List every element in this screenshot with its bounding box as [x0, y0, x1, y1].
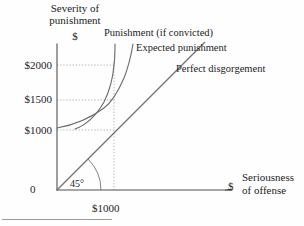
page-bottom-rule	[2, 219, 112, 220]
x-axis-unit: $	[228, 180, 234, 192]
y-axis-title-line2: punishment	[49, 14, 100, 26]
chart-figure: Severity of punishment $ $ Seriousness o…	[0, 0, 304, 226]
y-tick-label-1500: $1500	[6, 93, 52, 105]
angle-label-45-degrees: 45°	[70, 178, 84, 189]
curve-label-expected-punishment: Expected punishment	[136, 42, 227, 54]
y-axis-unit: $	[36, 30, 114, 42]
x-axis-title-line2: of offense	[242, 184, 286, 196]
curve-label-perfect-disgorgement: Perfect disgorgement	[176, 63, 265, 75]
y-tick-label-1000: $1000	[6, 124, 52, 136]
x-axis-title-line1: Seriousness	[242, 171, 294, 183]
y-tick-label-2000: $2000	[6, 59, 52, 71]
y-axis-title: Severity of punishment	[36, 2, 114, 27]
x-axis-title: Seriousness of offense	[242, 171, 304, 196]
x-tick-label-1000: $1000	[92, 202, 120, 214]
origin-label: 0	[30, 183, 36, 195]
angle-arc-45	[88, 159, 101, 190]
y-axis-title-line1: Severity of	[51, 2, 100, 14]
curve-punishment-if-convicted	[75, 44, 115, 129]
curve-label-punishment-if-convicted: Punishment (if convicted)	[104, 27, 213, 39]
